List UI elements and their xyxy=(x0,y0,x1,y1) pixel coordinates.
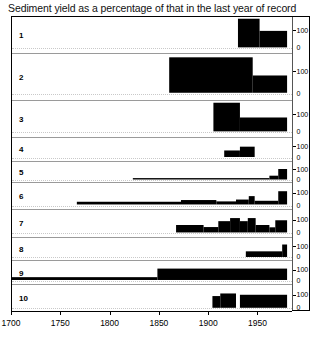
x-tick-label-1800: 1800 xyxy=(100,318,119,328)
chart-panel-2: 2 xyxy=(12,54,292,101)
axis-label-0: 0 xyxy=(297,277,301,284)
axis-label-100: 100 xyxy=(297,68,309,75)
panel-label-4: 4 xyxy=(19,145,23,154)
chart-panel-3: 3 xyxy=(12,101,292,138)
chart-panel-1: 1 xyxy=(12,17,292,54)
panel-series-6 xyxy=(12,183,292,209)
right-value-axis: 1000100010001000100010001000100010001000 xyxy=(293,17,311,310)
x-tick-label-1900: 1900 xyxy=(199,318,218,328)
x-tick-label-1700: 1700 xyxy=(2,318,21,328)
axis-label-100: 100 xyxy=(297,216,309,223)
x-tick-label-1950: 1950 xyxy=(248,318,267,328)
axis-label-0: 0 xyxy=(297,304,301,311)
x-tick-label-1850: 1850 xyxy=(149,318,168,328)
axis-label-100: 100 xyxy=(297,266,309,273)
panel-series-3 xyxy=(12,101,292,137)
panel-label-3: 3 xyxy=(19,114,23,123)
panel-series-5 xyxy=(12,162,292,183)
chart-figure: Sediment yield as a percentage of that i… xyxy=(0,0,330,342)
panel-series-9 xyxy=(12,261,292,284)
panel-label-9: 9 xyxy=(19,268,23,277)
axis-label-0: 0 xyxy=(297,229,301,236)
chart-panel-9: 9 xyxy=(12,261,292,285)
panel-stack: 12345678910 xyxy=(12,17,293,310)
panel-label-6: 6 xyxy=(19,192,23,201)
axis-cell-panel-7: 1000 xyxy=(293,210,311,238)
chart-panel-4: 4 xyxy=(12,138,292,162)
chart-panel-10: 10 xyxy=(12,285,292,312)
axis-cell-panel-9: 1000 xyxy=(293,261,311,285)
panel-series-10 xyxy=(12,285,292,312)
panel-label-10: 10 xyxy=(19,294,28,303)
axis-cell-panel-8: 1000 xyxy=(293,238,311,262)
panel-series-1 xyxy=(12,17,292,53)
axis-label-0: 0 xyxy=(297,176,301,183)
panel-label-8: 8 xyxy=(19,244,23,253)
panel-label-1: 1 xyxy=(19,31,23,40)
axis-cell-panel-2: 1000 xyxy=(293,54,311,101)
axis-label-100: 100 xyxy=(297,166,309,173)
axis-label-0: 0 xyxy=(297,44,301,51)
axis-label-0: 0 xyxy=(297,202,301,209)
axis-label-100: 100 xyxy=(297,243,309,250)
panel-label-2: 2 xyxy=(19,72,23,81)
panel-series-7 xyxy=(12,210,292,237)
axis-label-100: 100 xyxy=(297,27,309,34)
panel-label-7: 7 xyxy=(19,219,23,228)
axis-label-0: 0 xyxy=(297,154,301,161)
chart-panel-7: 7 xyxy=(12,210,292,238)
x-tick-label-1750: 1750 xyxy=(51,318,70,328)
axis-label-100: 100 xyxy=(297,189,309,196)
axis-cell-panel-4: 1000 xyxy=(293,138,311,162)
axis-label-100: 100 xyxy=(297,111,309,118)
axis-cell-panel-10: 1000 xyxy=(293,285,311,312)
panel-series-8 xyxy=(12,238,292,261)
axis-label-100: 100 xyxy=(297,291,309,298)
chart-title: Sediment yield as a percentage of that i… xyxy=(8,2,296,14)
chart-panel-6: 6 xyxy=(12,183,292,210)
axis-cell-panel-5: 1000 xyxy=(293,162,311,184)
axis-label-0: 0 xyxy=(297,253,301,260)
axis-label-0: 0 xyxy=(297,90,301,97)
plot-frame: 12345678910 1000100010001000100010001000… xyxy=(11,16,310,311)
panel-label-5: 5 xyxy=(19,167,23,176)
axis-cell-panel-1: 1000 xyxy=(293,17,311,54)
axis-label-100: 100 xyxy=(297,143,309,150)
axis-cell-panel-3: 1000 xyxy=(293,101,311,138)
chart-panel-8: 8 xyxy=(12,238,292,262)
panel-series-2 xyxy=(12,54,292,100)
axis-cell-panel-6: 1000 xyxy=(293,183,311,210)
chart-panel-5: 5 xyxy=(12,162,292,184)
panel-series-4 xyxy=(12,138,292,161)
axis-label-0: 0 xyxy=(297,128,301,135)
x-axis-tick-labels: 170017501800185019001950 xyxy=(11,318,310,330)
